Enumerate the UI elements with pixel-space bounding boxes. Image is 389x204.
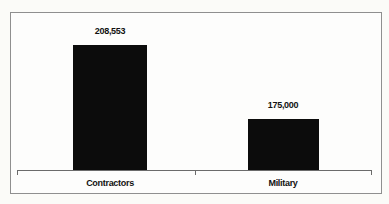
bar-value-label-military: 175,000 <box>268 101 298 110</box>
bar-contractors <box>73 45 147 170</box>
x-axis-label-military: Military <box>268 178 297 188</box>
bar-chart-plot-area: 208,553 175,000 Contractors Military <box>11 13 381 193</box>
chart-frame: 208,553 175,000 Contractors Military <box>10 12 382 194</box>
scanned-page-background: 208,553 175,000 Contractors Military <box>0 0 389 204</box>
x-axis-tick-left <box>17 170 18 175</box>
x-axis-label-contractors: Contractors <box>86 178 134 188</box>
bar-military <box>248 119 319 170</box>
x-axis-tick-middle <box>195 170 196 175</box>
x-axis-tick-right <box>371 170 372 175</box>
bar-value-label-contractors: 208,553 <box>95 27 125 36</box>
